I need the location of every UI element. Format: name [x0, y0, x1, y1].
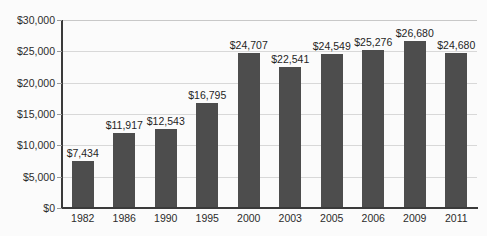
y-axis-tick-label: $15,000	[17, 108, 55, 120]
bar-slot: $12,543	[145, 20, 187, 208]
y-axis-tick-label: $10,000	[17, 139, 55, 151]
y-axis-tick-mark	[57, 20, 62, 21]
bar[interactable]	[155, 129, 177, 208]
bar-slot: $25,276	[353, 20, 395, 208]
bar[interactable]	[196, 103, 218, 208]
plot-area: $7,434$11,917$12,543$16,795$24,707$22,54…	[62, 20, 477, 208]
y-axis-tick-label: $0	[43, 202, 55, 214]
x-axis-tick-label: 2005	[320, 212, 343, 224]
bar-value-label: $26,680	[396, 27, 434, 39]
y-axis-tick-label: $20,000	[17, 77, 55, 89]
bar-slot: $24,549	[311, 20, 353, 208]
bar[interactable]	[72, 161, 94, 208]
bar[interactable]	[113, 133, 135, 208]
x-axis-tick-label: 1995	[196, 212, 219, 224]
x-axis-labels: 1982198619901995200020032005200620092011	[62, 212, 477, 232]
y-axis-tick-label: $30,000	[17, 14, 55, 26]
y-axis-tick-mark	[57, 114, 62, 115]
bar-series: $7,434$11,917$12,543$16,795$24,707$22,54…	[62, 20, 477, 208]
x-axis-tick-label: 2000	[237, 212, 260, 224]
bar-value-label: $25,276	[354, 36, 392, 48]
x-axis-line	[61, 207, 478, 209]
x-axis-tick-label: 1990	[154, 212, 177, 224]
bar[interactable]	[238, 53, 260, 208]
x-axis-tick-label: 1986	[113, 212, 136, 224]
bar-value-label: $24,707	[230, 39, 268, 51]
bar[interactable]	[404, 41, 426, 208]
bar-value-label: $16,795	[188, 89, 226, 101]
bar-value-label: $7,434	[67, 147, 99, 159]
bar-slot: $22,541	[270, 20, 312, 208]
bar[interactable]	[362, 50, 384, 208]
bar-slot: $24,707	[228, 20, 270, 208]
y-axis-tick-mark	[57, 145, 62, 146]
bar-slot: $24,680	[436, 20, 478, 208]
bar-slot: $26,680	[394, 20, 436, 208]
y-axis-tick-label: $5,000	[23, 171, 55, 183]
bar-value-label: $12,543	[147, 115, 185, 127]
bar-slot: $16,795	[187, 20, 229, 208]
bar-value-label: $11,917	[106, 119, 143, 131]
y-axis-tick-mark	[57, 83, 62, 84]
x-axis-tick-label: 2003	[279, 212, 302, 224]
bar-chart: $7,434$11,917$12,543$16,795$24,707$22,54…	[0, 0, 487, 236]
bar[interactable]	[321, 54, 343, 208]
bar[interactable]	[445, 53, 467, 208]
bar-value-label: $24,549	[313, 40, 351, 52]
x-axis-tick-label: 2011	[445, 212, 468, 224]
x-axis-tick-label: 1982	[71, 212, 94, 224]
y-axis-tick-mark	[57, 177, 62, 178]
bar[interactable]	[279, 67, 301, 208]
y-axis-tick-mark	[57, 51, 62, 52]
bar-value-label: $24,680	[437, 39, 475, 51]
x-axis-tick-label: 2006	[362, 212, 385, 224]
bar-slot: $7,434	[62, 20, 104, 208]
x-axis-tick-label: 2009	[403, 212, 426, 224]
bar-slot: $11,917	[104, 20, 146, 208]
y-axis-tick-mark	[57, 208, 62, 209]
bar-value-label: $22,541	[271, 53, 309, 65]
y-axis-tick-label: $25,000	[17, 45, 55, 57]
